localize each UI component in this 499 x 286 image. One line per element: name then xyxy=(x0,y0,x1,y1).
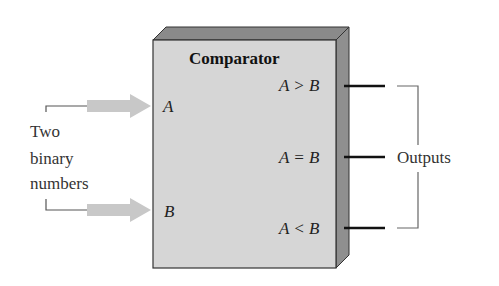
input-arrow-a xyxy=(87,94,151,118)
output-bracket-bottom xyxy=(397,172,418,228)
output-label-eq: A = B xyxy=(279,149,319,166)
block-side-face xyxy=(336,27,349,268)
input-label-b: B xyxy=(164,203,174,220)
input-label-a: A xyxy=(163,98,173,115)
comparator-diagram-graphics xyxy=(0,0,499,286)
input-arrow-b xyxy=(87,198,151,222)
output-label-lt: A < B xyxy=(279,220,319,237)
left-label-line-2: binary xyxy=(30,150,73,167)
input-bracket-bottom xyxy=(46,199,87,210)
output-label-gt: A > B xyxy=(279,77,319,94)
comparator-title: Comparator xyxy=(189,50,280,67)
left-label-line-3: numbers xyxy=(30,175,89,192)
output-bracket-top xyxy=(397,86,418,145)
left-label-line-1: Two xyxy=(30,123,60,140)
block-top-face xyxy=(153,27,349,40)
outputs-label: Outputs xyxy=(397,149,451,166)
input-bracket-top xyxy=(46,106,87,112)
